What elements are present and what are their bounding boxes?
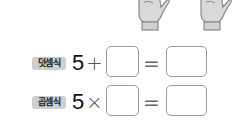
multiplication-equation-row: 곱셈식 5 × = [0,85,252,119]
open-hand-icon [197,0,233,32]
plus-operator: + [86,49,103,77]
equals-sign: = [143,88,160,116]
result-answer-box[interactable] [166,46,207,77]
addition-equation-row: 덧셈식 5 + = [0,46,252,80]
times-operator: × [86,88,103,116]
result-answer-box[interactable] [166,85,207,116]
operand-answer-box[interactable] [106,85,139,116]
open-hand-icon [135,0,171,32]
addition-label-badge: 덧셈식 [32,57,66,70]
first-number: 5 [72,88,84,116]
first-number: 5 [72,49,84,77]
multiplication-label-badge: 곱셈식 [32,96,66,109]
operand-answer-box[interactable] [106,46,139,77]
equals-sign: = [143,49,160,77]
